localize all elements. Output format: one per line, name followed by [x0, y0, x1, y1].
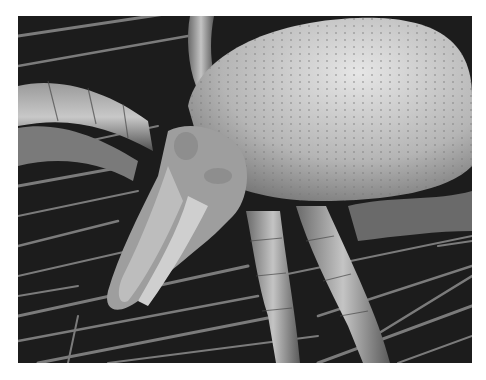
mite-sem-photo [18, 16, 472, 363]
mite-illustration [18, 16, 472, 363]
